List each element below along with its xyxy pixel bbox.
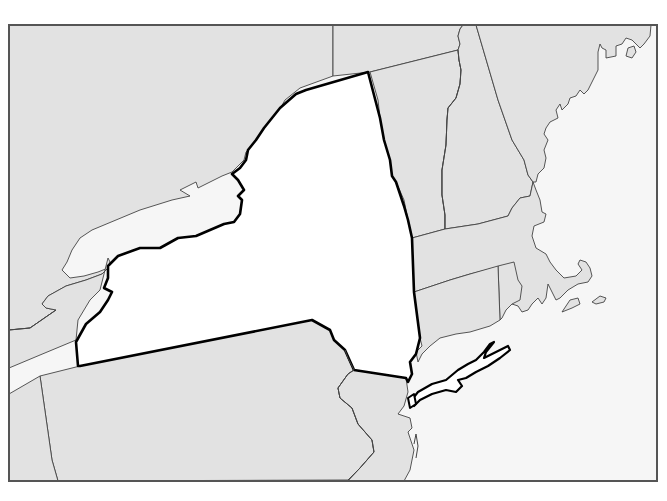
northeast-us-outline-map — [0, 0, 667, 501]
region-staten-island — [408, 394, 416, 408]
regions-layer — [9, 25, 657, 481]
map-container — [0, 0, 667, 501]
